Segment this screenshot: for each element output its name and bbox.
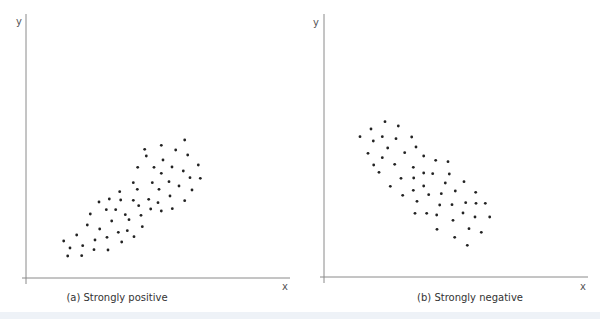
data-point [186,154,189,157]
data-point [89,213,92,216]
data-point [381,135,384,138]
data-point [158,188,161,191]
data-point [124,213,127,216]
data-point [440,192,443,195]
data-point [117,231,120,234]
data-point [69,247,72,250]
data-point [447,160,450,163]
data-point [118,190,121,193]
data-point [169,195,172,198]
data-point [86,224,89,227]
data-point [464,201,467,204]
data-point [132,199,135,202]
data-point [189,176,192,179]
data-point [370,128,373,131]
data-point [199,177,202,180]
data-point [183,139,186,142]
caption-a: (a) Strongly positive [66,292,167,303]
data-point [454,190,457,193]
data-point [183,199,186,202]
data-point [149,208,152,211]
data-point [466,244,469,247]
data-point [414,212,417,215]
data-point [372,140,375,143]
data-point [114,208,117,211]
data-point [153,166,156,169]
data-point [128,218,131,221]
data-point [151,181,154,184]
data-point [108,198,111,201]
data-point [435,214,438,217]
data-point [444,182,447,185]
data-point [484,202,487,205]
data-point [105,208,108,211]
data-point [480,231,483,234]
data-point [160,144,163,147]
scatter-figure: y x (a) Strongly positive y x (b) Strong… [0,0,600,319]
data-point [160,210,163,213]
data-point [80,254,83,257]
data-point [143,148,146,151]
data-point [389,185,392,188]
data-point [174,149,177,152]
data-point [381,156,384,159]
data-point [468,227,471,230]
data-point [453,236,456,239]
data-point [126,229,129,232]
data-point [81,244,84,247]
data-point [107,249,110,252]
panel-b: y x (b) Strongly negative [313,14,588,303]
data-point [451,203,454,206]
data-point [463,180,466,183]
data-point [178,185,181,188]
caption-b: (b) Strongly negative [417,292,523,303]
data-point [474,191,477,194]
data-point [416,200,419,203]
data-point [422,185,425,188]
points-b [359,120,492,246]
data-point [393,163,396,166]
data-point [436,228,439,231]
data-point [397,125,400,128]
data-point [386,147,389,150]
data-point [171,207,174,210]
data-point [147,198,150,201]
x-axis-label-b: x [580,281,586,292]
data-point [132,181,135,184]
data-point [415,146,418,149]
data-point [462,212,465,215]
y-axis-label-b: y [313,17,319,28]
data-point [106,236,109,239]
data-point [372,164,375,167]
data-point [197,164,200,167]
data-point [412,166,415,169]
data-point [168,180,171,183]
x-axis-label-a: x [282,281,288,292]
data-point [425,212,428,215]
panel-a: y x (a) Strongly positive [16,14,290,303]
data-point [136,166,139,169]
data-point [98,228,101,231]
data-point [98,201,101,204]
data-point [94,239,97,242]
data-point [431,172,434,175]
data-point [171,166,174,169]
data-point [136,188,139,191]
data-point [422,155,425,158]
data-point [182,170,185,173]
y-axis-label-a: y [16,16,22,27]
data-point [157,201,160,204]
data-point [137,204,140,207]
data-point [110,220,113,223]
data-point [434,159,437,162]
data-point [367,152,370,155]
data-point [475,202,478,205]
data-point [403,151,406,154]
data-point [145,155,148,158]
data-point [422,172,425,175]
data-point [75,234,78,237]
data-point [400,177,403,180]
data-point [160,172,163,175]
data-point [93,248,96,251]
data-point [141,225,144,228]
